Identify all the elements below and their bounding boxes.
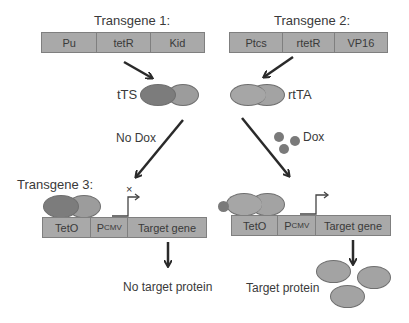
segment-ptcs: Ptcs [230, 33, 283, 52]
target-protein-molecule [316, 260, 351, 283]
bound-dox-molecule [218, 201, 229, 212]
arrow-transgene2-to-rtta [264, 57, 293, 77]
dox-molecule [279, 144, 289, 154]
segment-pcmv: PCMV [91, 218, 128, 237]
promoter-arrow-right [300, 195, 327, 214]
segment-rtetr: rtetR [283, 33, 334, 52]
arrow-transgene1-to-tts [124, 62, 152, 78]
rtta-subunit-left [230, 84, 266, 106]
segment-pcmv: PCMV [278, 216, 316, 235]
rtta-label: rtTA [288, 87, 312, 102]
no-target-protein-label: No target protein [123, 280, 212, 294]
transgene3-construct-right: TetO PCMV Target gene [231, 215, 391, 236]
segment-kid: Kid [151, 33, 204, 52]
transgene3-construct-left: TetO PCMV Target gene [42, 217, 207, 238]
segment-teto: TetO [43, 218, 91, 237]
bound-tts-dark [43, 195, 79, 218]
transgene2-title: Transgene 2: [274, 13, 350, 28]
no-dox-label: No Dox [116, 131, 156, 145]
target-protein-molecule [330, 285, 365, 308]
segment-vp16: VP16 [335, 33, 387, 52]
promoter-arrow-left [112, 197, 138, 216]
tts-subunit-dark [140, 84, 176, 106]
segment-teto: TetO [232, 216, 278, 235]
segment-target-gene: Target gene [316, 216, 390, 235]
dox-molecule [274, 132, 284, 142]
dox-molecule [290, 136, 300, 146]
target-protein-molecule [357, 266, 391, 289]
tts-label: tTS [117, 87, 137, 102]
bound-rtta-left [226, 193, 262, 216]
transgene3-title: Transgene 3: [17, 177, 93, 192]
segment-pu: Pu [42, 33, 97, 52]
target-protein-label: Target protein [246, 281, 319, 295]
transgene1-construct: Pu tetR Kid [41, 32, 205, 53]
segment-target-gene: Target gene [128, 218, 206, 237]
blocked-x-icon: × [126, 183, 132, 195]
segment-tetr: tetR [97, 33, 150, 52]
arrow-no-dox [136, 120, 183, 177]
dox-label: Dox [303, 130, 324, 144]
transgene1-title: Transgene 1: [94, 13, 170, 28]
transgene2-construct: Ptcs rtetR VP16 [229, 32, 388, 53]
